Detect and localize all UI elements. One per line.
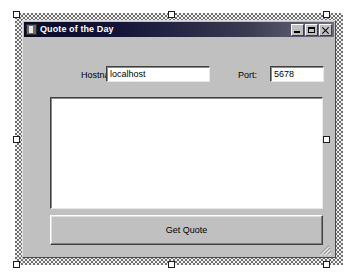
designer-canvas: Quote of the Day Hostname: localhost Por… [0, 0, 355, 280]
close-button[interactable] [319, 24, 332, 36]
form-window[interactable]: Quote of the Day Hostname: localhost Por… [22, 20, 336, 258]
window-controls [291, 24, 333, 36]
selection-handle-top-left[interactable] [13, 11, 20, 18]
minimize-button[interactable] [291, 24, 304, 36]
hostname-input[interactable]: localhost [106, 66, 210, 82]
selection-handle-bottom-right[interactable] [323, 261, 330, 268]
form-app-icon [26, 24, 37, 35]
selection-handle-bottom-center[interactable] [168, 261, 175, 268]
get-quote-button[interactable]: Get Quote [50, 215, 323, 245]
port-label: Port: [238, 70, 257, 81]
window-title-bar[interactable]: Quote of the Day [24, 22, 334, 37]
port-input[interactable]: 5678 [270, 66, 324, 82]
quote-output-textarea[interactable] [50, 97, 323, 209]
selection-handle-middle-left[interactable] [13, 136, 20, 143]
selection-handle-top-right[interactable] [323, 11, 330, 18]
selection-handle-top-center[interactable] [168, 11, 175, 18]
maximize-button[interactable] [305, 24, 318, 36]
selection-handle-middle-right[interactable] [323, 136, 330, 143]
form-design-surface[interactable]: Hostname: localhost Port: 5678 Get Quote [24, 38, 334, 256]
selection-handle-bottom-left[interactable] [13, 261, 20, 268]
window-title: Quote of the Day [40, 23, 291, 36]
